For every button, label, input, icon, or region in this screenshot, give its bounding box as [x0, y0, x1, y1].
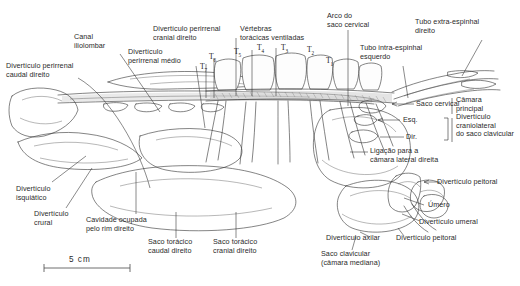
vertebra-tick-t3: T3 — [281, 43, 288, 54]
label-camara-principal: Câmara principal — [456, 96, 483, 113]
label-diverticulo-peitoral-inferior: Divertículo peitoral — [396, 234, 457, 243]
vertebra-tick-t1: T1 — [326, 56, 333, 67]
ribs — [206, 101, 393, 164]
label-saco-toracico-caudal-direito: Saco torácico caudal direito — [148, 238, 192, 255]
label-diverticulo-umeral: Divertículo umeral — [419, 218, 478, 227]
label-saco-toracico-cranial-direito: Saco torácico cranial direito — [213, 238, 257, 255]
label-tubo-intra-espinhal-esquerdo: Tubo intra-espinhal esquerdo — [360, 44, 422, 61]
label-diverticulo-craniolateral-saco-clavicular: Divertículo craniolateral do saco clavic… — [456, 113, 514, 139]
vertebra-tick-t5: T5 — [234, 47, 241, 58]
thoracic-vertebrae — [214, 53, 382, 90]
vertebra-tick-t7: T7 — [200, 62, 207, 73]
label-tubo-extra-espinhal-direito: Tubo extra-espinhal direito — [415, 18, 479, 35]
label-saco-cervical: Saco cervical — [416, 100, 459, 109]
scale-bar-label: 5 cm — [69, 255, 91, 264]
label-arco-do-saco-cervical: Arco do saco cervical — [327, 12, 369, 29]
label-diverticulo-perirrenal-cranial-direito: Divertículo perirrenal cranial direito — [153, 25, 220, 42]
label-saco-clavicular-camara-mediana: Saco clavicular (câmara mediana) — [321, 250, 380, 267]
vertebrae-line2: torácicas ventiladas — [240, 33, 304, 42]
label-ligacao-camara-lateral-direita: Ligação para a câmara lateral direita — [370, 147, 438, 164]
label-umero: Úmero — [428, 201, 450, 210]
scale-bar — [44, 264, 130, 272]
label-diverticulo-axilar: Divertículo axilar — [326, 234, 380, 243]
vertebra-tick-t6: T6 — [209, 52, 216, 63]
artwork-air-sacs — [9, 53, 500, 232]
label-vertebras-toracicas-ventiladas: Vértebrastorácicas ventiladas — [240, 25, 304, 42]
vertebra-tick-t4: T4 — [257, 43, 264, 54]
label-diverticulo-peitoral-superior: Divertículo peitoral — [437, 178, 498, 187]
label-diverticulo-perirrenal-caudal-direito: Divertículo perirrenal caudal direito — [6, 62, 73, 79]
label-cavidade-ocupada-rim-direito: Cavidade ocupada pelo rim direito — [86, 216, 147, 233]
label-dir: Dir. — [406, 133, 417, 142]
label-canal-iliolombar: Canal iliolombar — [74, 33, 105, 50]
label-diverticulo-isquiatico: Divertículo isquiático — [16, 185, 51, 202]
vertebra-tick-t2: T2 — [307, 45, 314, 56]
label-esq: Esq. — [403, 116, 418, 125]
label-diverticulo-crural: Divertículo crural — [34, 210, 69, 227]
label-diverticulo-perirrenal-medio: Divertículo perirrenal médio — [128, 48, 181, 65]
